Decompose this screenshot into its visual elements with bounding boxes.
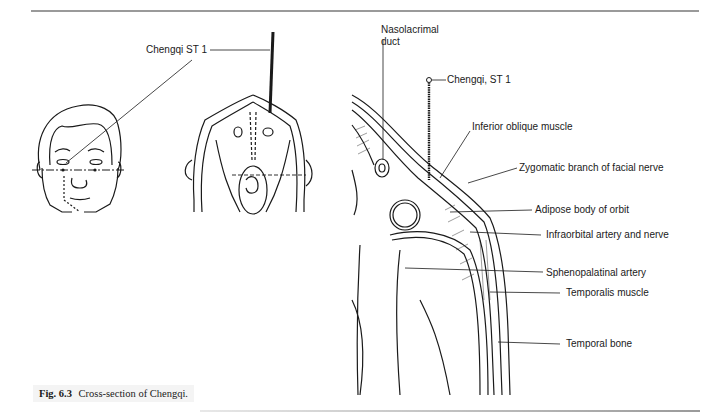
figure-caption: Fig. 6.3 Cross-section of Chengqi. [33,385,194,402]
figure-cross-section: Chengqi ST 1 Nasolacrimal duct Chengqi, … [0,0,706,413]
label-adipose-body: Adipose body of orbit [535,204,629,216]
label-temporal-bone: Temporal bone [566,338,632,350]
label-infraorbital-artery-nerve: Infraorbital artery and nerve [546,229,669,241]
leader-line-face [66,60,192,163]
label-nasolacrimal-line1: Nasolacrimal [381,24,439,36]
needle-left [270,32,273,113]
label-inferior-oblique-muscle: Inferior oblique muscle [472,121,573,133]
face-drawing [37,105,121,212]
label-nasolacrimal-line2: duct [381,36,400,48]
hatching [355,126,490,300]
label-chengqi-st1-left: Chengqi ST 1 [146,44,207,56]
axial-section-drawing [185,95,312,214]
label-zygomatic-branch: Zygomatic branch of facial nerve [519,162,664,174]
caption-text: Cross-section of Chengqi. [79,388,188,399]
label-chengqi-st1-right: Chengqi, ST 1 [447,74,511,86]
label-temporalis-muscle: Temporalis muscle [566,287,649,299]
bottom-rule [200,410,700,412]
caption-number: Fig. 6.3 [39,388,72,399]
label-sphenopalatinal-artery: Sphenopalatinal artery [546,267,646,279]
